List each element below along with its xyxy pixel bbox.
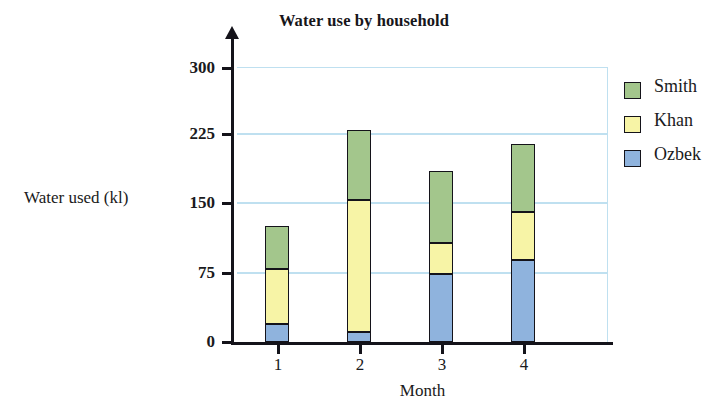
gridline-225 xyxy=(237,133,608,135)
y-axis-label: Water used (kl) xyxy=(24,188,199,208)
x-tick-3 xyxy=(441,345,444,354)
y-tick-150 xyxy=(222,202,232,205)
y-tick-label-0: 0 xyxy=(155,332,215,352)
y-tick-label-300: 300 xyxy=(155,58,215,78)
gridline-75 xyxy=(237,272,608,274)
bar-segment-smith-month-4[interactable] xyxy=(511,144,535,212)
y-tick-label-75: 75 xyxy=(155,263,215,283)
x-axis-label: Month xyxy=(237,381,608,401)
x-tick-label-1: 1 xyxy=(258,355,298,375)
bar-stack-month-1[interactable] xyxy=(265,0,289,342)
y-tick-75 xyxy=(222,272,232,275)
legend-label-ozbek: Ozbek xyxy=(654,144,701,165)
legend-label-smith: Smith xyxy=(654,76,697,97)
legend-swatch-khan xyxy=(624,116,641,133)
x-tick-label-4: 4 xyxy=(504,355,544,375)
legend-swatch-ozbek xyxy=(624,150,641,167)
bar-segment-smith-month-3[interactable] xyxy=(429,171,453,243)
x-tick-label-3: 3 xyxy=(422,355,462,375)
bar-stack-month-4[interactable] xyxy=(511,0,535,342)
legend-swatch-smith xyxy=(624,82,641,99)
chart-container: Water use by household 300 225 150 75 0 … xyxy=(0,0,728,409)
bar-stack-month-2[interactable] xyxy=(347,0,371,342)
bar-segment-smith-month-2[interactable] xyxy=(347,130,371,200)
y-tick-225 xyxy=(222,133,232,136)
bar-segment-ozbek-month-1[interactable] xyxy=(265,324,289,342)
x-tick-1 xyxy=(277,345,280,354)
bar-stack-month-3[interactable] xyxy=(429,0,453,342)
gridline-150 xyxy=(237,202,608,204)
y-axis-arrow-icon xyxy=(225,26,239,39)
y-axis-line xyxy=(231,33,234,344)
y-tick-300 xyxy=(222,67,232,70)
x-tick-2 xyxy=(359,345,362,354)
bar-segment-khan-month-1[interactable] xyxy=(265,269,289,324)
legend-label-khan: Khan xyxy=(654,110,693,131)
x-axis-line xyxy=(231,342,613,345)
y-tick-0 xyxy=(222,341,232,344)
bar-segment-khan-month-4[interactable] xyxy=(511,212,535,261)
bar-segment-khan-month-2[interactable] xyxy=(347,200,371,332)
x-tick-4 xyxy=(523,345,526,354)
plot-area xyxy=(237,67,608,343)
y-tick-label-225: 225 xyxy=(155,124,215,144)
bar-segment-khan-month-3[interactable] xyxy=(429,243,453,274)
bar-segment-ozbek-month-4[interactable] xyxy=(511,260,535,342)
x-tick-label-2: 2 xyxy=(340,355,380,375)
bar-segment-smith-month-1[interactable] xyxy=(265,226,289,269)
bar-segment-ozbek-month-2[interactable] xyxy=(347,332,371,342)
bar-segment-ozbek-month-3[interactable] xyxy=(429,274,453,342)
